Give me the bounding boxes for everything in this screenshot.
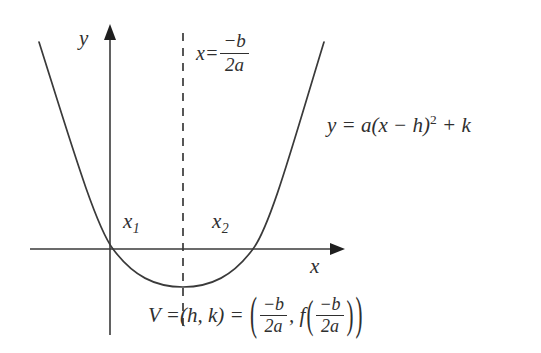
parabola-k: k xyxy=(461,113,470,137)
vertex-big-close-paren: ) xyxy=(356,291,363,338)
vertex-v: V xyxy=(148,303,160,327)
axis-sym-denominator: 2a xyxy=(220,53,248,76)
vertex-inner-close-paren: ) xyxy=(347,295,354,336)
vertex-k: k xyxy=(208,303,217,327)
parabola-equation: y = a(x − h)2 + k xyxy=(327,115,471,136)
parabola-open-paren: ( xyxy=(372,113,379,137)
root-x2-base: x xyxy=(212,209,221,233)
vertex-y-fraction: −b2a xyxy=(316,295,343,337)
parabola-figure: y x x1 x2 x=−b2a y = a(x − h)2 + k V =(h… xyxy=(0,0,541,353)
parabola-coefficient: a xyxy=(361,113,372,137)
axis-sym-equals: = xyxy=(205,42,219,64)
parabola-exponent: 2 xyxy=(430,112,437,127)
vertex-x-numerator: −b xyxy=(260,295,287,315)
y-axis-arrowhead xyxy=(104,24,116,40)
vertex-equals-1: = xyxy=(166,303,180,327)
axis-sym-numerator: −b xyxy=(220,31,248,53)
root-x2-label: x2 xyxy=(212,211,228,232)
parabola-curve xyxy=(39,42,324,287)
vertex-x-fraction: −b2a xyxy=(260,295,287,337)
root-x2-subscript: 2 xyxy=(222,221,229,236)
vertex-y-denominator: 2a xyxy=(316,315,343,336)
y-axis-label: y xyxy=(79,28,88,49)
vertex-h: h xyxy=(187,303,198,327)
vertex-inner-open-paren: ( xyxy=(306,295,313,336)
parabola-plus: + xyxy=(442,113,456,137)
axis-sym-lhs: x xyxy=(196,42,205,64)
root-x1-subscript: 1 xyxy=(133,221,140,236)
vertex-y-numerator: −b xyxy=(316,295,343,315)
parabola-close-paren: ) xyxy=(423,113,430,137)
x-axis-arrowhead xyxy=(330,243,345,255)
axis-sym-fraction: −b2a xyxy=(220,31,248,75)
vertex-x-denominator: 2a xyxy=(260,315,287,336)
parabola-lhs: y xyxy=(327,113,336,137)
x-axis-label: x xyxy=(310,256,319,277)
axis-of-symmetry-equation: x=−b2a xyxy=(196,33,251,77)
root-x1-base: x xyxy=(123,209,132,233)
vertex-big-open-paren: ( xyxy=(250,291,257,338)
parabola-equals: = xyxy=(342,113,356,137)
vertex-open-paren: ( xyxy=(180,303,187,327)
vertex-close-paren: ) xyxy=(217,303,224,327)
vertex-comma-1: , xyxy=(197,303,202,327)
parabola-variable: x xyxy=(379,113,388,137)
parabola-h: h xyxy=(413,113,424,137)
parabola-minus: − xyxy=(393,113,407,137)
vertex-equals-2: = xyxy=(229,303,243,327)
vertex-comma-2: , xyxy=(289,303,294,327)
vertex-equation: V =(h, k) = (−b2a, f(−b2a)) xyxy=(148,296,364,338)
root-x1-label: x1 xyxy=(123,211,139,232)
vertex-f: f xyxy=(300,303,306,327)
